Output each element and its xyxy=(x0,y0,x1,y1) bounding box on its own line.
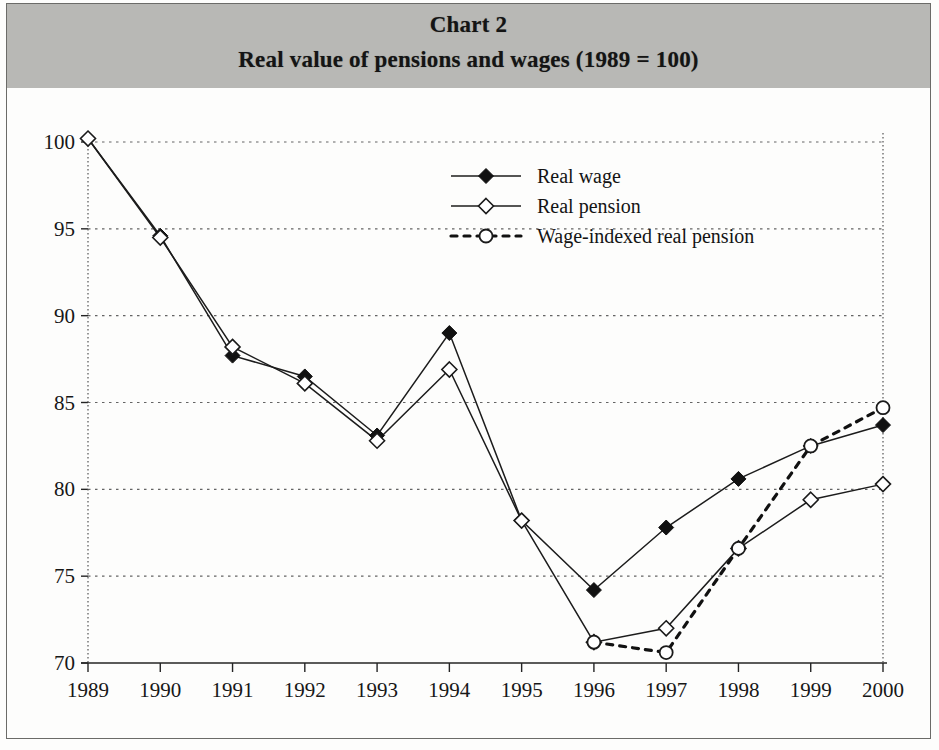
data-point-marker xyxy=(876,418,891,433)
data-point-marker xyxy=(876,477,891,492)
chart-legend: Real wageReal pensionWage-indexed real p… xyxy=(451,165,754,248)
data-point-marker xyxy=(587,636,600,649)
x-axis-label: 1994 xyxy=(428,678,471,702)
y-axis-label: 95 xyxy=(54,217,75,241)
y-axis-labels-group: 707580859095100 xyxy=(44,130,76,675)
x-axis-ticks-group xyxy=(88,663,883,672)
data-point-marker xyxy=(731,471,746,486)
series-line-2 xyxy=(594,408,883,653)
chart-page: Chart 2 Real value of pensions and wages… xyxy=(0,0,939,750)
chart-subtitle: Real value of pensions and wages (1989 =… xyxy=(7,36,930,71)
y-axis-label: 85 xyxy=(54,391,75,415)
series-lines-group xyxy=(88,139,883,653)
x-axis-label: 1998 xyxy=(717,678,759,702)
x-axis-label: 1992 xyxy=(284,678,326,702)
y-axis-ticks-group xyxy=(81,142,88,663)
legend-marker-1 xyxy=(479,199,494,214)
x-axis-label: 1995 xyxy=(501,678,543,702)
data-point-marker xyxy=(732,542,745,555)
x-axis-label: 1989 xyxy=(67,678,109,702)
x-axis-label: 1999 xyxy=(790,678,832,702)
x-axis-label: 1996 xyxy=(573,678,615,702)
data-point-marker xyxy=(81,131,96,146)
data-point-marker xyxy=(804,439,817,452)
x-axis-label: 1993 xyxy=(356,678,398,702)
y-axis-label: 100 xyxy=(44,130,76,154)
data-point-marker xyxy=(442,326,457,341)
data-point-marker xyxy=(153,230,168,245)
x-axis-labels-group: 1989199019911992199319941995199619971998… xyxy=(67,678,904,702)
data-point-marker xyxy=(660,646,673,659)
legend-label: Wage-indexed real pension xyxy=(537,225,754,248)
data-point-marker xyxy=(803,492,818,507)
chart-title: Chart 2 xyxy=(7,4,930,36)
legend-label: Real wage xyxy=(537,165,621,188)
x-axis-label: 1990 xyxy=(139,678,181,702)
legend-marker-0 xyxy=(479,169,494,184)
line-chart: 707580859095100 198919901991199219931994… xyxy=(7,88,930,738)
y-axis-label: 80 xyxy=(54,477,75,501)
chart-header-band: Chart 2 Real value of pensions and wages… xyxy=(7,4,930,88)
y-axis-label: 75 xyxy=(54,564,75,588)
legend-marker-2 xyxy=(480,230,493,243)
x-axis-label: 2000 xyxy=(862,678,904,702)
x-axis-label: 1997 xyxy=(645,678,687,702)
plot-area-container: 707580859095100 198919901991199219931994… xyxy=(7,88,930,738)
y-axis-label: 90 xyxy=(54,304,75,328)
legend-label: Real pension xyxy=(537,195,641,218)
y-axis-label: 70 xyxy=(54,651,75,675)
data-point-marker xyxy=(877,401,890,414)
x-axis-label: 1991 xyxy=(212,678,254,702)
data-point-marker xyxy=(225,339,240,354)
